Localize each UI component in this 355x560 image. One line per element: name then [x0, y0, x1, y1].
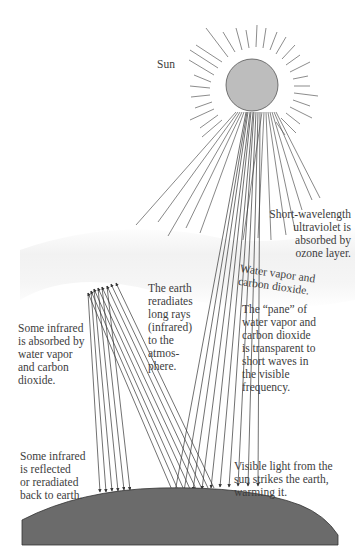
infrared-down-rays — [88, 286, 130, 492]
sun-disc — [226, 59, 278, 111]
absorbed-label: Some infrared is absorbed by water vapor… — [18, 322, 84, 387]
sun-label: Sun — [157, 58, 175, 71]
reflected-label: Some infrared is reflected or reradiated… — [20, 450, 85, 502]
visible-light-label: Visible light from the sun strikes the e… — [234, 460, 333, 499]
ozone-label: Short-wavelength ultraviolet is absorbed… — [255, 208, 351, 260]
pane-label: The “pane” of water vapor and carbon dio… — [242, 303, 316, 394]
reradiates-label: The earth reradiates long rays (infrared… — [148, 282, 193, 373]
